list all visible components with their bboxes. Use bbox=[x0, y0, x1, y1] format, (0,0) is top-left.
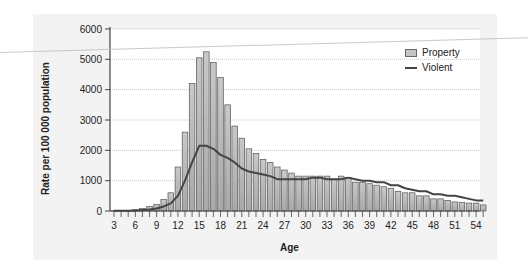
svg-text:54: 54 bbox=[471, 220, 483, 231]
svg-text:0: 0 bbox=[96, 206, 102, 217]
svg-text:4000: 4000 bbox=[80, 84, 103, 95]
legend-item-property: Property bbox=[405, 45, 460, 60]
legend-item-violent: Violent bbox=[405, 60, 460, 75]
svg-text:45: 45 bbox=[407, 220, 419, 231]
svg-text:2000: 2000 bbox=[80, 145, 103, 156]
bar-swatch-icon bbox=[405, 49, 417, 57]
svg-text:48: 48 bbox=[428, 220, 440, 231]
chart-svg: 0100020003000400050006000369121518212427… bbox=[0, 0, 528, 272]
x-axis-label: Age bbox=[280, 242, 299, 253]
svg-text:42: 42 bbox=[385, 220, 397, 231]
svg-text:9: 9 bbox=[154, 220, 160, 231]
svg-text:36: 36 bbox=[343, 220, 355, 231]
svg-text:6: 6 bbox=[133, 220, 139, 231]
svg-text:33: 33 bbox=[321, 220, 333, 231]
svg-text:51: 51 bbox=[449, 220, 461, 231]
svg-text:39: 39 bbox=[364, 220, 376, 231]
svg-text:3: 3 bbox=[111, 220, 117, 231]
svg-text:21: 21 bbox=[236, 220, 248, 231]
svg-text:18: 18 bbox=[215, 220, 227, 231]
svg-text:5000: 5000 bbox=[80, 54, 103, 65]
svg-text:1000: 1000 bbox=[80, 175, 103, 186]
svg-text:24: 24 bbox=[258, 220, 270, 231]
line-swatch-icon bbox=[405, 67, 417, 69]
legend: Property Violent bbox=[405, 45, 460, 75]
svg-text:6000: 6000 bbox=[80, 24, 103, 35]
svg-text:12: 12 bbox=[172, 220, 184, 231]
legend-label: Property bbox=[422, 47, 460, 58]
legend-label: Violent bbox=[422, 62, 452, 73]
svg-text:30: 30 bbox=[300, 220, 312, 231]
svg-text:27: 27 bbox=[279, 220, 291, 231]
y-axis-label: Rate per 100 000 population bbox=[40, 54, 51, 204]
svg-text:15: 15 bbox=[194, 220, 206, 231]
svg-text:3000: 3000 bbox=[80, 115, 103, 126]
